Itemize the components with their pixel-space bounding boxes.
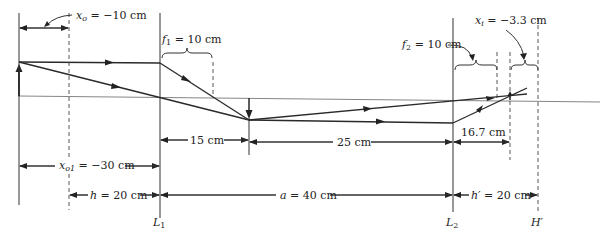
xo-dimension xyxy=(20,15,72,28)
h-prime-label: h′ = 20 cm xyxy=(471,189,531,202)
H-prime-label: H′ xyxy=(530,216,544,229)
xi-label: xi = −3.3 cm xyxy=(475,14,547,28)
two-lens-ray-diagram: xo = −10 cm f1 = 10 cm f2 = 10 cm xi = −… xyxy=(0,0,613,235)
dim-16.7cm-label: 16.7 cm xyxy=(461,126,506,139)
dim-15cm-label: 15 cm xyxy=(190,134,225,147)
a-label: a = 40 cm xyxy=(280,189,337,202)
ray-after-image-1 xyxy=(249,94,527,120)
ray-after-image-2 xyxy=(249,88,527,125)
intermediate-image-arrow xyxy=(246,98,253,119)
f2-brace xyxy=(455,60,497,70)
final-image-arrow xyxy=(508,91,513,100)
f1-label: f1 = 10 cm xyxy=(161,33,222,47)
dim-25cm-label: 25 cm xyxy=(337,136,372,149)
xi-brace xyxy=(511,60,538,70)
f1-brace xyxy=(162,48,212,58)
h-label: h = 20 cm xyxy=(90,189,148,202)
optical-axis xyxy=(18,96,600,102)
lens-L2-label: L2 xyxy=(445,216,458,230)
ray-oblique xyxy=(19,62,249,120)
xo-label: xo = −10 cm xyxy=(76,9,147,23)
lens-L1-label: L1 xyxy=(152,216,165,230)
